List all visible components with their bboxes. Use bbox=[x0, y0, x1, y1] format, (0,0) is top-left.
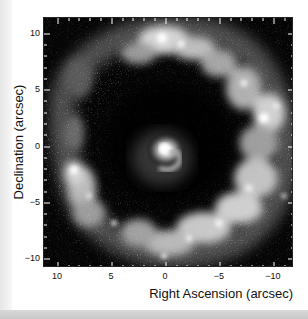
y-tick-label: 5 bbox=[16, 84, 40, 94]
y-tick-label: 10 bbox=[16, 28, 40, 38]
y-tick-label: 0 bbox=[16, 141, 40, 151]
y-tick-label: −10 bbox=[16, 253, 40, 263]
x-tick-label: −10 bbox=[265, 271, 280, 281]
x-axis-label: Right Ascension (arcsec) bbox=[149, 286, 293, 301]
y-tick-label: −5 bbox=[16, 197, 40, 207]
galaxy-ring-image bbox=[44, 18, 293, 267]
galaxy-image-plot bbox=[43, 17, 293, 267]
x-tick-label: 0 bbox=[162, 271, 167, 281]
x-tick-label: 5 bbox=[108, 271, 113, 281]
x-tick-label: −5 bbox=[214, 271, 224, 281]
x-tick-label: 10 bbox=[52, 271, 62, 281]
page-bottom-band bbox=[0, 310, 308, 319]
